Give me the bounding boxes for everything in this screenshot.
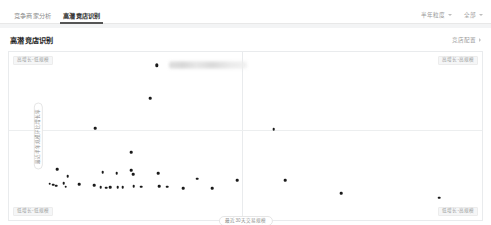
tab-high-potential-competitor[interactable]: 高潜竞店识别	[57, 13, 106, 23]
filter-time-granularity-label: 半年粒度	[421, 11, 445, 19]
quadrant-divider-vertical	[242, 52, 243, 220]
quadrant-divider-horizontal	[9, 130, 482, 131]
y-axis-label: 最近半年规模环比增长率	[34, 103, 43, 170]
scatter-point[interactable]	[66, 175, 69, 178]
scatter-point[interactable]	[130, 169, 133, 172]
scatter-point[interactable]	[55, 184, 58, 187]
scatter-point[interactable]	[284, 179, 287, 182]
scatter-point[interactable]	[438, 197, 441, 200]
scatter-point[interactable]	[109, 186, 112, 189]
scatter-point[interactable]	[116, 172, 119, 175]
scatter-point[interactable]	[99, 186, 102, 189]
scatter-point[interactable]	[132, 173, 135, 176]
scatter-point-highlighted[interactable]	[155, 64, 158, 67]
high-potential-competitor-page: 竞争商家分析 高潜竞店识别 半年粒度 全部 高潜竞店识别 竞店配置 高增长-低规…	[0, 0, 491, 225]
section-header: 高潜竞店识别 竞店配置	[0, 28, 491, 51]
scatter-point[interactable]	[140, 185, 143, 188]
top-tab-bar: 竞争商家分析 高潜竞店识别 半年粒度 全部	[0, 0, 491, 24]
competitor-config-link[interactable]: 竞店配置	[452, 36, 481, 44]
scatter-point[interactable]	[196, 177, 199, 180]
scatter-point[interactable]	[116, 186, 119, 189]
page-title: 高潜竞店识别	[10, 35, 54, 45]
scatter-point[interactable]	[157, 172, 160, 175]
scatter-point[interactable]	[94, 127, 97, 130]
scatter-point[interactable]	[158, 185, 161, 188]
x-axis-label: 最近30天交易规模	[218, 216, 272, 225]
quadrant-label-bottom-right: 低增长-高规模	[438, 207, 478, 216]
chevron-right-icon	[479, 38, 481, 42]
scatter-point[interactable]	[105, 186, 108, 189]
filter-scope[interactable]: 全部	[464, 11, 483, 19]
filter-scope-label: 全部	[464, 11, 476, 19]
scatter-plot-area[interactable]: 高增长-低规模 高增长-高规模 低增长-低规模 低增长-高规模	[9, 52, 482, 220]
filter-time-granularity[interactable]: 半年粒度	[421, 11, 452, 19]
chevron-down-icon	[479, 14, 483, 16]
scatter-point[interactable]	[101, 171, 104, 174]
header-filter-group: 半年粒度 全部	[421, 11, 483, 23]
scatter-point[interactable]	[340, 192, 343, 195]
scatter-point[interactable]	[78, 183, 81, 186]
scatter-point[interactable]	[211, 187, 214, 190]
scatter-point[interactable]	[56, 168, 59, 171]
scatter-point[interactable]	[130, 151, 133, 154]
scatter-point[interactable]	[64, 185, 67, 188]
scatter-point[interactable]	[121, 186, 124, 189]
quadrant-label-top-right: 高增长-高规模	[438, 56, 478, 65]
scatter-point[interactable]	[149, 97, 152, 100]
point-label-redacted	[169, 62, 247, 69]
scatter-point[interactable]	[133, 185, 136, 188]
scatter-point[interactable]	[63, 182, 66, 185]
quadrant-label-top-left: 高增长-低规模	[13, 56, 53, 65]
scatter-point[interactable]	[48, 182, 51, 185]
chevron-down-icon	[448, 14, 452, 16]
quadrant-scatter-chart: 高增长-低规模 高增长-高规模 低增长-低规模 低增长-高规模 最近半年规模环比…	[8, 51, 483, 221]
scatter-point[interactable]	[93, 184, 96, 187]
competitor-config-label: 竞店配置	[452, 36, 476, 44]
tab-competitor-analysis[interactable]: 竞争商家分析	[8, 13, 57, 23]
scatter-point[interactable]	[273, 128, 276, 131]
scatter-point[interactable]	[182, 187, 185, 190]
scatter-point[interactable]	[236, 179, 239, 182]
quadrant-label-bottom-left: 低增长-低规模	[13, 207, 53, 216]
scatter-point[interactable]	[166, 185, 169, 188]
